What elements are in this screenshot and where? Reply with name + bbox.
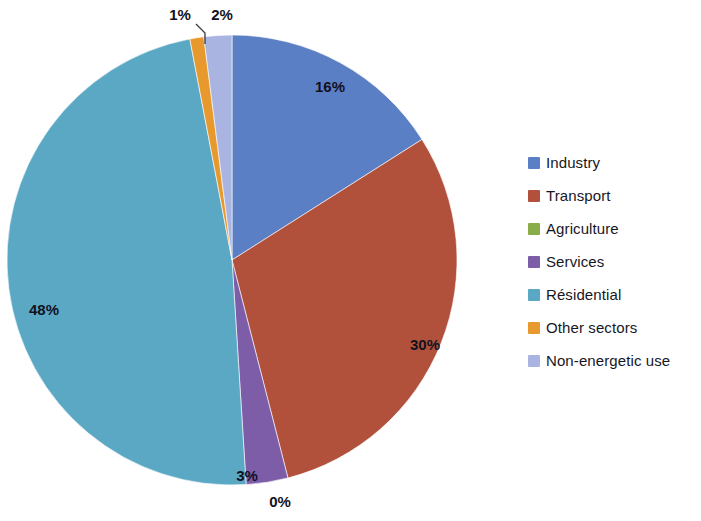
slice-label-non-energetic-use: 2% — [211, 6, 233, 23]
legend-swatch-icon — [528, 223, 540, 235]
legend-swatch-icon — [528, 322, 540, 334]
legend-item-label: Services — [546, 253, 604, 270]
legend-swatch-icon — [528, 289, 540, 301]
slice-label-agriculture: 0% — [269, 493, 291, 510]
legend-item-label: Non-energetic use — [546, 352, 670, 369]
legend-item-other-sectors[interactable]: Other sectors — [528, 311, 698, 344]
legend-swatch-icon — [528, 190, 540, 202]
slice-label-other-sectors: 1% — [169, 6, 191, 23]
legend-item-label: Agriculture — [546, 220, 619, 237]
slice-label-r-sidential: 48% — [29, 301, 59, 318]
legend-item-industry[interactable]: Industry — [528, 146, 698, 179]
legend-item-label: Other sectors — [546, 319, 637, 336]
slice-label-services: 3% — [236, 467, 258, 484]
legend-item-r-sidential[interactable]: Résidential — [528, 278, 698, 311]
slice-label-industry: 16% — [315, 78, 345, 95]
legend-item-non-energetic-use[interactable]: Non-energetic use — [528, 344, 698, 377]
legend-item-label: Transport — [546, 187, 611, 204]
pie-chart: 16%30%0%3%48%1%2% IndustryTransportAgric… — [0, 0, 701, 521]
pie-slices-group — [7, 35, 457, 485]
chart-legend: IndustryTransportAgricultureServicesRési… — [528, 146, 698, 377]
legend-swatch-icon — [528, 157, 540, 169]
slice-label-transport: 30% — [410, 336, 440, 353]
legend-item-label: Industry — [546, 154, 600, 171]
legend-item-agriculture[interactable]: Agriculture — [528, 212, 698, 245]
legend-swatch-icon — [528, 355, 540, 367]
legend-item-label: Résidential — [546, 286, 621, 303]
legend-swatch-icon — [528, 256, 540, 268]
legend-item-services[interactable]: Services — [528, 245, 698, 278]
legend-item-transport[interactable]: Transport — [528, 179, 698, 212]
